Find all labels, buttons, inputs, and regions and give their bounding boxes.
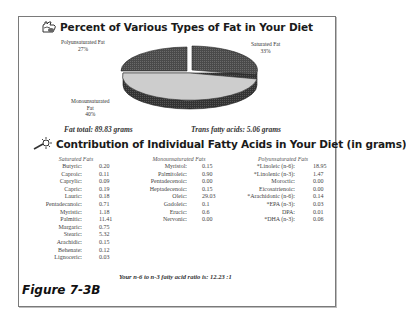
row-value: 0.00: [187, 178, 213, 186]
slice-saturated: [192, 46, 257, 75]
row-value: 0.20: [82, 163, 110, 171]
fatty-acids-title-text: Contribution of Individual Fatty Acids i…: [56, 138, 406, 150]
row-value: 29.03: [187, 193, 216, 201]
row-value: 0.19: [82, 186, 110, 194]
row-value: 0.71: [82, 201, 110, 209]
table-row: Stearic:5.32: [27, 231, 125, 239]
row-value: 0.18: [82, 193, 110, 201]
row-name: *Linoleic (n-6):: [231, 163, 295, 171]
row-name: Arachidic:: [27, 239, 82, 247]
row-value: 1.18: [82, 209, 110, 217]
row-name: Pentadecenoic:: [129, 178, 187, 186]
row-name: Behenate:: [27, 247, 82, 255]
row-value: 0.03: [82, 254, 110, 262]
row-value: 0.06: [295, 216, 324, 224]
sun-icon: [33, 137, 53, 150]
label-monounsaturated-pct: 40%: [71, 111, 110, 118]
row-name: Eicosatrienoic:: [231, 186, 295, 194]
row-name: Caproic:: [27, 171, 82, 179]
row-name: Lignoceric:: [27, 254, 82, 262]
table-row: Lignoceric:0.03: [27, 254, 125, 262]
row-value: 0.09: [82, 178, 110, 186]
table-row: Palmitoleic:0.90: [129, 171, 229, 179]
row-name: *EPA (n-3):: [231, 201, 295, 209]
table-row: Erucic:0.6: [129, 209, 229, 217]
row-value: 11.41: [82, 216, 112, 224]
table-row: Lauric:0.18: [27, 193, 125, 201]
table-row: Behenate:0.12: [27, 247, 125, 255]
table-row: *Arachidonic (n-6):0.14: [231, 193, 335, 201]
row-value: 0.1: [187, 201, 210, 209]
fatty-acids-title: Contribution of Individual Fatty Acids i…: [33, 137, 406, 150]
row-value: 0.15: [187, 163, 213, 171]
row-name: *DHA (n-3):: [231, 216, 295, 224]
table-row: Palmitic:11.41: [27, 216, 125, 224]
row-value: 5.32: [82, 231, 110, 239]
row-name: Erucic:: [129, 209, 187, 217]
trans-fatty-acids: Trans fatty acids: 5.06 grams: [191, 125, 281, 134]
table-row: Butyric:0.20: [27, 163, 125, 171]
table-row: Caprylic:0.09: [27, 178, 125, 186]
row-name: DPA:: [231, 209, 295, 217]
row-value: 0.03: [295, 201, 324, 209]
pie-chart-title: Percent of Various Types of Fat in Your …: [19, 21, 335, 33]
pie-chart: [120, 41, 260, 113]
row-name: Gadoleic:: [129, 201, 187, 209]
label-saturated: Saturated Fat 33%: [251, 41, 280, 54]
row-name: Heptadecenoic:: [129, 186, 187, 194]
row-name: *Linolenic (n-3):: [231, 171, 295, 179]
table-row: Myristic:1.18: [27, 209, 125, 217]
row-value: 0.12: [82, 247, 110, 255]
table-row: Moroctic:0.00: [231, 178, 335, 186]
row-name: Palmitic:: [27, 216, 82, 224]
saturated-fats-header: Saturated Fats: [27, 156, 125, 162]
fat-total: Fat total: 89.83 grams: [64, 125, 133, 134]
row-name: Lauric:: [27, 193, 82, 201]
table-row: *EPA (n-3):0.03: [231, 201, 335, 209]
table-row: Arachidic:0.15: [27, 239, 125, 247]
row-name: Margaric:: [27, 224, 82, 232]
table-row: Eicosatrienoic:0.00: [231, 186, 335, 194]
row-value: 0.11: [82, 171, 109, 179]
table-row: Pentadecenoic:0.00: [129, 178, 229, 186]
figure-label: Figure 7-3B: [22, 283, 101, 297]
label-polyunsaturated-pct: 27%: [61, 46, 105, 53]
fatty-acid-ratio: Your n-6 to n-3 fatty acid ratio is: 12.…: [119, 273, 232, 280]
row-name: *Arachidonic (n-6):: [231, 193, 295, 201]
row-value: 0.00: [295, 186, 324, 194]
row-value: 0.15: [82, 239, 110, 247]
row-value: 1.47: [295, 171, 324, 179]
row-name: Stearic:: [27, 231, 82, 239]
row-value: 0.01: [295, 209, 324, 217]
row-name: Myristol:: [129, 163, 187, 171]
label-saturated-name: Saturated Fat: [251, 41, 280, 48]
row-name: Moroctic:: [231, 178, 295, 186]
row-value: 0.75: [82, 224, 110, 232]
row-name: Myristic:: [27, 209, 82, 217]
label-polyunsaturated: Polyunsaturated Fat 27%: [61, 39, 105, 52]
table-row: *DHA (n-3):0.06: [231, 216, 335, 224]
table-row: DPA:0.01: [231, 209, 335, 217]
table-row: Caproic:0.11: [27, 171, 125, 179]
table-row: Oleic:29.03: [129, 193, 229, 201]
row-name: Palmitoleic:: [129, 171, 187, 179]
row-name: Butyric:: [27, 163, 82, 171]
row-name: Oleic:: [129, 193, 187, 201]
row-value: 0.14: [295, 193, 324, 201]
label-saturated-pct: 33%: [251, 48, 280, 55]
table-row: *Linolenic (n-3):1.47: [231, 171, 335, 179]
table-row: Margaric:0.75: [27, 224, 125, 232]
row-value: 0.90: [187, 171, 213, 179]
table-row: Myristol:0.15: [129, 163, 229, 171]
monounsaturated-fats-column: Monounsaturated Fats Myristol:0.15 Palmi…: [129, 156, 229, 224]
row-value: 0.6: [187, 209, 210, 217]
table-row: *Linoleic (n-6):18.95: [231, 163, 335, 171]
row-value: 0.15: [187, 186, 213, 194]
label-monounsaturated: Monounsaturated Fat 40%: [71, 98, 110, 118]
table-row: Nervonic:0.00: [129, 216, 229, 224]
row-name: Caprylic:: [27, 178, 82, 186]
figure-frame: Percent of Various Types of Fat in Your …: [18, 16, 336, 307]
polyunsaturated-fats-column: Polyunsaturated Fats *Linoleic (n-6):18.…: [231, 156, 335, 224]
row-name: Capric:: [27, 186, 82, 194]
table-row: Gadoleic:0.1: [129, 201, 229, 209]
